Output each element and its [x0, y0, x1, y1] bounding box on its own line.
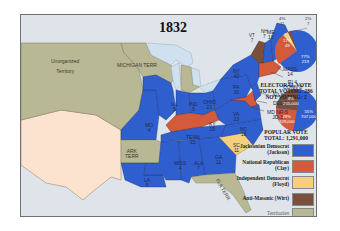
state-label-ky: KY 15	[209, 122, 216, 132]
label-text: DEL	[273, 100, 283, 106]
label-text: 10	[268, 34, 274, 40]
legend-swatch-jackson	[292, 144, 314, 157]
label-text: 42	[234, 73, 240, 79]
state-label-ind: IND 9	[189, 102, 198, 112]
popular-vote-heading: POPULAR VOTETOTAL: 1,291,000	[253, 130, 317, 142]
state-label-ny: NY 42	[233, 69, 240, 79]
label-text: 5	[173, 106, 176, 112]
state-label-me: ME 10	[267, 30, 275, 40]
state-label-ill: ILL 5	[171, 102, 178, 112]
legend-swatch-territories	[292, 208, 314, 217]
legend-item-floyd: Independent Democrat (Floyd)	[211, 176, 316, 190]
label-text: TOTAL: 1,291,000	[253, 136, 317, 142]
state-label-mass: MASS 14	[283, 67, 297, 77]
unorganized-territory-label: Unorganized Territory	[51, 59, 79, 74]
label-text: 7	[251, 38, 254, 43]
state-label-la: LA 5	[144, 178, 150, 188]
ev-floyd-label: 4% 11	[279, 17, 285, 26]
legend-item-wirt: Anti-Masonic (Wirt)	[211, 193, 316, 207]
label-text: 7	[263, 34, 266, 39]
legend-swatch-clay	[292, 160, 314, 173]
label-text: Independent Democrat (Floyd)	[237, 176, 289, 187]
state-label-nh: NH 7	[261, 29, 268, 39]
state-label-vt: VT 7	[249, 33, 255, 43]
label-text: 15	[210, 126, 216, 132]
label-text: 219	[302, 59, 309, 64]
label-text: 23	[233, 116, 239, 122]
label-text: 21	[207, 104, 213, 110]
label-text: 9	[192, 106, 195, 112]
michigan-territory-label: MICHIGAN TERR	[117, 63, 157, 68]
legend-item-jackson: Jacksonian Democrat (Jackson)	[211, 144, 316, 158]
state-label-ala: ALA 7	[194, 161, 203, 171]
label-text: 7	[197, 165, 200, 171]
label-text: 255,000	[283, 101, 299, 106]
label-text: National Republican (Clay)	[242, 160, 289, 171]
label-text: 15	[190, 139, 196, 145]
label-text: 15	[241, 131, 247, 137]
state-label-tenn: TENN 15	[186, 135, 200, 145]
label-text: 30	[233, 89, 239, 95]
label-text: 49	[285, 43, 290, 48]
label-text: 4	[148, 127, 151, 133]
state-label-miss: MISS 4	[174, 161, 186, 171]
pv-clay-label: 29% 329,000	[279, 115, 295, 124]
legend-item-territories: Territories	[211, 208, 316, 217]
legend-swatch-floyd	[292, 176, 314, 189]
label-text: 7	[307, 21, 309, 26]
map-title: 1832	[159, 20, 187, 36]
label-text: Jacksonian Democrat (Jackson)	[240, 144, 289, 155]
label-text: 5	[146, 182, 149, 188]
pv-wirt-label: 8% 255,000	[283, 97, 299, 106]
label-text: 4	[179, 165, 182, 171]
state-label-ohio: OHIO 21	[203, 100, 216, 110]
legend-swatch-wirt	[292, 193, 314, 206]
legend-item-clay: National Republican (Clay)	[211, 160, 316, 174]
label-text: 707,000	[301, 114, 317, 119]
arkansas-territory-label: ARK TERR	[125, 149, 139, 159]
label-text: 11	[280, 21, 284, 26]
ev-clay-label: 17% 49	[283, 39, 292, 48]
label-text: 329,000	[279, 119, 295, 124]
pv-jackson-label: 55% 707,000	[301, 110, 317, 119]
state-label-va: VA 23	[233, 112, 239, 122]
label-text: Anti-Masonic (Wirt)	[242, 196, 289, 202]
state-label-mo: MO 4	[145, 123, 153, 133]
state-label-pa: PA 30	[233, 85, 239, 95]
state-label-nc: NC 15	[240, 127, 247, 137]
map-frame: 1832 Unorganized Territory MICHIGAN TERR…	[20, 14, 317, 217]
ev-wirt-label: 2% 7	[305, 17, 311, 26]
ev-jackson-label: 77% 219	[301, 55, 310, 64]
label-text: 14	[287, 71, 293, 77]
label-text: Territories	[267, 211, 289, 217]
